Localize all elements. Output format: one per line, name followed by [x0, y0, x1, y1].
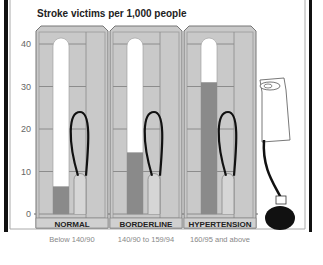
y-tick-label: 40	[21, 39, 31, 49]
y-tick-label: 30	[21, 82, 31, 92]
right-border-bar	[309, 0, 312, 232]
gauge-normal: NORMALBelow 140/90	[36, 26, 108, 244]
y-tick-label: 0	[26, 209, 31, 219]
gauge-hypertension: HYPERTENSION160/95 and above	[184, 26, 256, 244]
chart: Stroke victims per 1,000 people 01020304…	[0, 0, 323, 265]
category-label: BORDERLINE	[120, 220, 174, 229]
category-sublabel: 160/95 and above	[190, 235, 250, 244]
y-tick-label: 10	[21, 167, 31, 177]
category-sublabel: 140/90 to 159/94	[118, 235, 174, 244]
gauge-post	[222, 174, 234, 215]
blood-pressure-cuff-icon	[260, 78, 295, 230]
bar-borderline	[127, 152, 143, 214]
bar-normal	[53, 186, 69, 214]
category-label: HYPERTENSION	[188, 220, 251, 229]
category-sublabel: Below 140/90	[49, 235, 94, 244]
category-label: NORMAL	[54, 220, 89, 229]
gauge-post	[74, 174, 86, 215]
chart-title: Stroke victims per 1,000 people	[37, 8, 187, 19]
y-tick-label: 20	[21, 124, 31, 134]
left-border-bar	[4, 0, 8, 232]
gauge-borderline: BORDERLINE140/90 to 159/94	[110, 26, 182, 244]
gauge-post	[148, 174, 160, 215]
bar-hypertension	[201, 82, 217, 214]
